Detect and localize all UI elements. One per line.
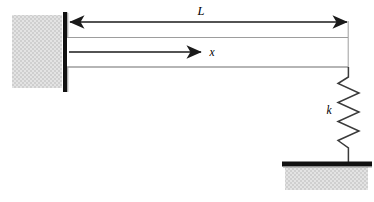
length-dimension-group: L: [70, 4, 347, 22]
ground-bar: [282, 162, 372, 167]
spring-coil: [338, 67, 359, 163]
axis-label: x: [208, 46, 215, 58]
cantilever-beam-spring-diagram: L x k: [0, 0, 374, 202]
length-label: L: [197, 4, 205, 18]
ground-support-group: [282, 162, 372, 191]
fixed-support-bar: [63, 12, 67, 92]
spring-group: k: [326, 67, 359, 163]
left-wall-hatch-block: [12, 15, 62, 88]
ground-hatch-block: [285, 167, 368, 190]
left-wall-group: [12, 12, 68, 92]
diagram-canvas: L x k: [0, 0, 374, 202]
ground-bar-shadow: [283, 167, 372, 168]
stiffness-label: k: [326, 104, 332, 116]
